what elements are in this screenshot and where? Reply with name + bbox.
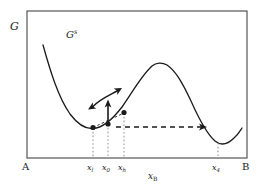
x-axis-label: xB <box>148 172 158 181</box>
point-x-h[interactable] <box>121 110 126 115</box>
tick-label-x-4-main: x <box>212 163 217 172</box>
tick-label-x-0: x0 <box>102 164 110 172</box>
point-x-0[interactable] <box>105 121 110 126</box>
tick-label-x-0-sub: 0 <box>107 167 111 173</box>
tick-label-x-l: xl <box>87 164 93 172</box>
curve-label-superscript: s <box>74 28 77 36</box>
curve-label-main: G <box>66 29 74 40</box>
left-corner-label: A <box>22 162 29 172</box>
tick-label-x-0-main: x <box>102 163 107 172</box>
right-corner-label: B <box>242 162 249 172</box>
tick-label-x-4: x4 <box>212 164 220 172</box>
tick-label-x-l-main: x <box>87 163 92 172</box>
tick-label-x-h-sub: h <box>123 167 127 173</box>
tick-label-x-h-main: x <box>118 163 123 172</box>
tick-label-x-h: xh <box>118 164 126 172</box>
x-axis-label-sub: B <box>153 175 157 182</box>
point-x-l[interactable] <box>90 125 95 130</box>
curve-label: Gs <box>66 30 77 40</box>
y-axis-label: G <box>10 21 19 32</box>
plot-area <box>0 0 271 192</box>
tick-label-x-4-sub: 4 <box>217 167 221 173</box>
free-energy-figure: G Gs A B xl x0 xh x4 xB <box>0 0 271 192</box>
